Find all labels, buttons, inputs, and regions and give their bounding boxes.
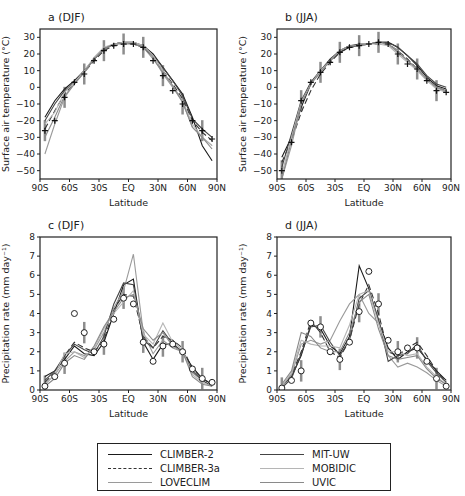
obs-marker <box>91 349 97 355</box>
series-climber-2 <box>45 279 212 384</box>
obs-marker <box>199 128 205 134</box>
x-tick-label: 90S <box>268 183 285 193</box>
series-uvic <box>282 42 446 179</box>
x-tick-label: 60S <box>61 394 78 404</box>
x-tick-label: 60S <box>297 183 314 193</box>
chart-figure: a (DJF)Surface air temperature (°C)Latit… <box>0 0 465 496</box>
series-uvic <box>45 44 212 149</box>
obs-marker <box>405 345 411 351</box>
series-mobidic <box>45 42 212 145</box>
y-tick-label: −20 <box>16 116 35 126</box>
y-tick-label: 20 <box>261 49 273 59</box>
x-tick-label: 30S <box>326 183 343 193</box>
legend-item-mit-uw: MIT-UW <box>260 447 350 461</box>
plot-area <box>279 266 449 399</box>
legend-item-mobidic: MOBIDIC <box>260 461 356 475</box>
plot-area <box>42 254 215 397</box>
obs-marker <box>308 320 314 326</box>
obs-marker <box>209 136 215 142</box>
legend-label: CLIMBER-2 <box>160 449 214 460</box>
obs-marker <box>434 376 440 382</box>
series-mit-uw <box>282 42 446 167</box>
x-tick-label: 60N <box>413 394 431 404</box>
obs-marker <box>327 349 333 355</box>
y-tick-label: 0 <box>266 385 272 395</box>
plot-frame <box>40 29 217 179</box>
y-tick-label: −40 <box>253 149 272 159</box>
legend-swatch <box>260 454 304 455</box>
x-tick-label: 90S <box>31 183 48 193</box>
y-tick-label: 0 <box>29 82 35 92</box>
legend-label: LOVECLIM <box>160 477 210 488</box>
y-tick-label: 3 <box>266 328 272 338</box>
panel-a: a (DJF)Surface air temperature (°C)Latit… <box>0 11 226 208</box>
x-axis-label: Latitude <box>344 197 383 208</box>
obs-marker <box>52 374 58 380</box>
obs-marker <box>170 341 176 347</box>
series-climber-3a <box>45 44 212 141</box>
series-loveclim <box>45 254 212 386</box>
panel-title: b (JJA) <box>285 11 318 24</box>
y-tick-label: −50 <box>253 166 272 176</box>
x-tick-label: 60S <box>61 183 78 193</box>
panel-title: c (DJF) <box>48 219 84 232</box>
y-tick-label: 6 <box>29 270 35 280</box>
obs-marker <box>366 41 372 47</box>
obs-marker <box>189 366 195 372</box>
series-mit-uw <box>45 283 212 386</box>
legend-item-uvic: UVIC <box>260 475 336 489</box>
legend-swatch <box>260 482 304 483</box>
obs-marker <box>81 71 87 77</box>
plot-area <box>42 34 215 161</box>
series-mobidic <box>45 291 212 387</box>
legend-label: MOBIDIC <box>312 463 356 474</box>
y-tick-label: 7 <box>266 251 272 261</box>
y-axis-label: Surface air temperature (°C) <box>237 36 248 172</box>
y-tick-label: 5 <box>29 289 35 299</box>
y-tick-label: −40 <box>16 149 35 159</box>
y-tick-label: 1 <box>29 366 35 376</box>
y-tick-label: 30 <box>24 32 36 42</box>
y-tick-label: 7 <box>29 251 35 261</box>
x-axis-label: Latitude <box>344 408 383 419</box>
y-tick-label: −20 <box>253 116 272 126</box>
x-tick-label: 90N <box>208 394 226 404</box>
legend-swatch <box>108 468 152 469</box>
obs-marker <box>424 358 430 364</box>
x-tick-label: 90N <box>442 183 460 193</box>
legend-label: CLIMBER-3a <box>160 463 220 474</box>
y-tick-label: −30 <box>253 132 272 142</box>
legend-swatch <box>260 468 304 469</box>
y-tick-label: 1 <box>266 366 272 376</box>
y-tick-label: 8 <box>266 232 272 242</box>
x-tick-label: 30S <box>90 394 107 404</box>
series-mit-uw <box>282 291 446 389</box>
y-tick-label: 5 <box>266 289 272 299</box>
y-tick-label: 30 <box>261 32 273 42</box>
series-climber-3a <box>282 44 446 162</box>
series-loveclim <box>282 42 446 179</box>
obs-marker <box>199 376 205 382</box>
obs-marker <box>81 330 87 336</box>
panel-title: d (JJA) <box>285 219 318 232</box>
x-tick-label: EQ <box>122 394 135 404</box>
x-tick-label: 90N <box>208 183 226 193</box>
obs-marker <box>298 368 304 374</box>
obs-marker <box>376 301 382 307</box>
x-tick-label: 30S <box>326 394 343 404</box>
series-climber-2 <box>45 42 212 160</box>
legend-item-climber-3a: CLIMBER-3a <box>108 461 220 475</box>
series-loveclim <box>45 42 212 154</box>
y-tick-label: 4 <box>266 309 272 319</box>
x-tick-label: 30S <box>90 183 107 193</box>
series-uvic <box>45 294 212 386</box>
obs-marker <box>318 324 324 330</box>
y-tick-label: 8 <box>29 232 35 242</box>
obs-marker <box>180 349 186 355</box>
obs-marker <box>347 339 353 345</box>
legend-label: UVIC <box>312 477 336 488</box>
x-tick-label: 90S <box>268 394 285 404</box>
series-climber-3a <box>45 294 212 384</box>
obs-marker <box>385 337 391 343</box>
y-axis-label: Precipitation rate (mm day⁻¹) <box>237 244 248 384</box>
